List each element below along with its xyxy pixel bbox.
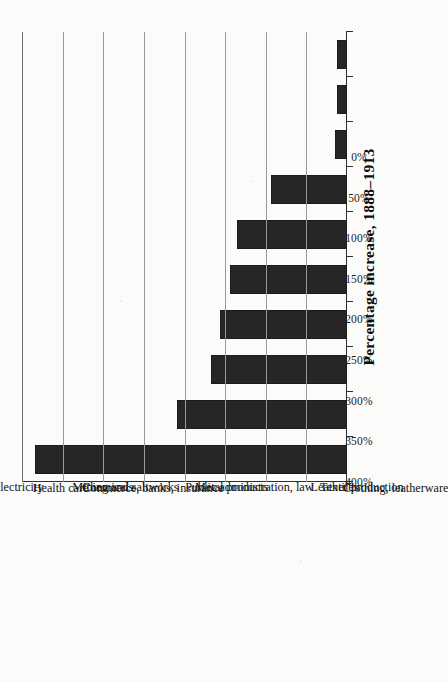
category-axis-tick-labels: Gas, water, electricityHealth careChemic…	[22, 484, 347, 682]
category-tick-label: Clothing, leatherware	[342, 481, 448, 496]
category-tick-label: Public administration, law	[185, 481, 313, 496]
bar	[271, 175, 347, 205]
bar	[237, 220, 347, 250]
bar	[211, 355, 347, 385]
gridline	[225, 32, 226, 482]
gridline	[266, 32, 267, 482]
gridline	[103, 32, 104, 482]
bar	[337, 40, 347, 70]
gridline	[185, 32, 186, 482]
axis-title-text: Percentage increase, 1888–1913	[360, 148, 378, 365]
scan-speckle	[300, 560, 302, 562]
axis-title: Percentage increase, 1888–1913	[360, 32, 388, 482]
bar	[230, 265, 347, 295]
bar	[337, 85, 347, 115]
scan-speckle	[120, 300, 122, 302]
plot-area	[22, 32, 347, 482]
gridline	[22, 32, 23, 482]
gridline	[306, 32, 307, 482]
bar	[35, 445, 347, 475]
gridline	[63, 32, 64, 482]
gridline	[144, 32, 145, 482]
bar	[177, 400, 347, 430]
scan-speckle	[250, 180, 252, 182]
bar	[220, 310, 347, 340]
